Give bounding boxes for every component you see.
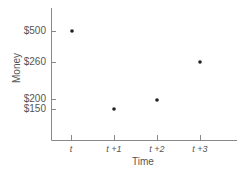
money-time-chart: $500 $260 $200 $150 t t +1 t +2 t +3 Mon… [0, 0, 248, 176]
data-point-t1 [112, 107, 116, 111]
x-tick-label-t: t [56, 144, 86, 154]
x-tick-label-t1: t +1 [99, 144, 129, 154]
x-tick-label-t3: t +3 [185, 144, 215, 154]
y-axis-label: Money [6, 58, 26, 78]
y-tick-label-150: $150 [6, 103, 46, 114]
x-tick-label-t2: t +2 [142, 144, 172, 154]
data-point-t [70, 29, 74, 33]
x-axis-label: Time [132, 156, 154, 167]
y-tick-label-500: $500 [6, 25, 46, 36]
data-point-t2 [155, 98, 159, 102]
data-point-t3 [198, 60, 202, 64]
